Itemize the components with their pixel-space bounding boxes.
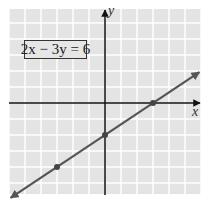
y-axis-label: y (108, 3, 114, 19)
data-point (54, 164, 60, 170)
coordinate-plane (0, 0, 208, 206)
data-point (102, 132, 108, 138)
data-point (150, 100, 156, 106)
equation-label: 2x − 3y = 6 (24, 40, 87, 59)
x-axis-label: x (192, 104, 198, 120)
